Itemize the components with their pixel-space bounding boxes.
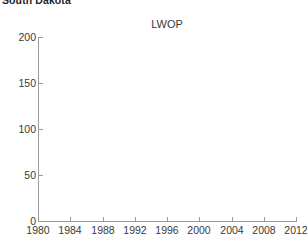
plot-area <box>38 37 296 221</box>
y-axis-label-50: 50 <box>24 170 36 181</box>
y-axis-label-100: 100 <box>18 124 36 135</box>
y-axis-label-200: 200 <box>18 32 36 43</box>
x-axis-tick <box>296 217 297 221</box>
chart-figure: South Dakota LWOP 200 150 100 50 0 1980 … <box>0 0 308 241</box>
x-axis-label-1980: 1980 <box>26 224 50 236</box>
x-axis-tick <box>135 217 136 221</box>
x-axis-line <box>38 221 297 222</box>
y-axis-tick <box>39 221 43 222</box>
x-axis-label-2000: 2000 <box>187 224 211 236</box>
x-axis-tick <box>38 217 39 221</box>
y-axis-tick <box>39 129 43 130</box>
x-axis-label-1992: 1992 <box>123 224 147 236</box>
panel-label-lwop: LWOP <box>38 18 296 31</box>
x-axis-tick <box>199 217 200 221</box>
x-axis-tick <box>167 217 168 221</box>
x-axis-tick <box>70 217 71 221</box>
y-axis-label-150: 150 <box>18 78 36 89</box>
x-axis-tick <box>232 217 233 221</box>
y-axis-tick <box>39 83 43 84</box>
x-axis-label-1996: 1996 <box>155 224 179 236</box>
x-axis-label-1984: 1984 <box>58 224 82 236</box>
x-axis-label-2008: 2008 <box>252 224 276 236</box>
y-axis-tick <box>39 37 43 38</box>
x-axis-tick <box>264 217 265 221</box>
x-axis-label-2004: 2004 <box>220 224 244 236</box>
x-axis-label-2012: 2012 <box>284 224 308 236</box>
page-title: South Dakota <box>2 0 71 6</box>
x-axis-tick <box>103 217 104 221</box>
y-axis-tick <box>39 175 43 176</box>
x-axis-label-1988: 1988 <box>91 224 115 236</box>
